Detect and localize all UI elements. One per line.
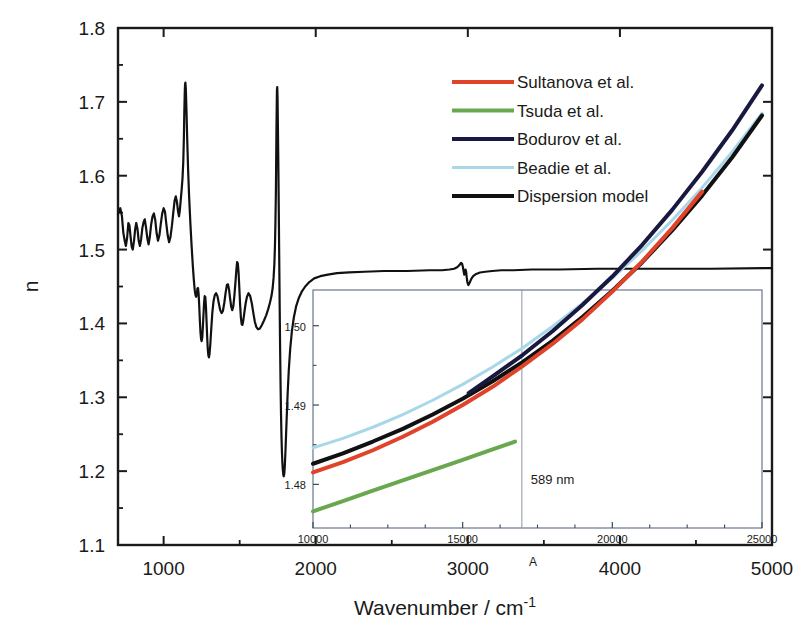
figure-root: 100020003000400050001.11.21.31.41.51.61.… bbox=[0, 0, 795, 632]
x-tick-label: 4000 bbox=[599, 558, 641, 579]
y-tick-label: 1.5 bbox=[79, 240, 105, 261]
inset-y-tick-label: 1.50 bbox=[285, 321, 306, 333]
inset-y-tick-label: 1.48 bbox=[285, 479, 306, 491]
inset-frame bbox=[313, 290, 762, 528]
legend-label: Sultanova et al. bbox=[517, 73, 634, 92]
x-tick-label: 3000 bbox=[447, 558, 489, 579]
y-tick-label: 1.2 bbox=[79, 461, 105, 482]
y-tick-label: 1.6 bbox=[79, 166, 105, 187]
marker-label-589nm: 589 nm bbox=[531, 472, 574, 487]
x-tick-label: 1000 bbox=[142, 558, 184, 579]
y-tick-label: 1.3 bbox=[79, 387, 105, 408]
x-axis-title: Wavenumber / cm-1 bbox=[354, 594, 536, 619]
y-tick-label: 1.4 bbox=[79, 313, 106, 334]
inset-x-tick-label: 10000 bbox=[298, 533, 329, 545]
inset-x-tick-label: 15000 bbox=[447, 533, 478, 545]
refractive-index-dispersion-chart: 100020003000400050001.11.21.31.41.51.61.… bbox=[0, 0, 795, 632]
x-tick-label: 2000 bbox=[295, 558, 337, 579]
y-axis-title: n bbox=[19, 281, 42, 293]
y-tick-label: 1.7 bbox=[79, 92, 105, 113]
y-tick-label: 1.8 bbox=[79, 18, 105, 39]
y-tick-label: 1.1 bbox=[79, 535, 105, 556]
inset-y-tick-label: 1.49 bbox=[285, 400, 306, 412]
inset-x-tick-label: 20000 bbox=[597, 533, 628, 545]
legend-label: Tsuda et al. bbox=[517, 102, 604, 121]
legend-label: Beadie et al. bbox=[517, 159, 612, 178]
inset-x-tick-label: 25000 bbox=[747, 533, 778, 545]
legend-label: Bodurov et al. bbox=[517, 130, 622, 149]
legend-label: Dispersion model bbox=[517, 187, 648, 206]
x-tick-label: 5000 bbox=[751, 558, 793, 579]
axis-annotation-a: A bbox=[529, 555, 537, 569]
